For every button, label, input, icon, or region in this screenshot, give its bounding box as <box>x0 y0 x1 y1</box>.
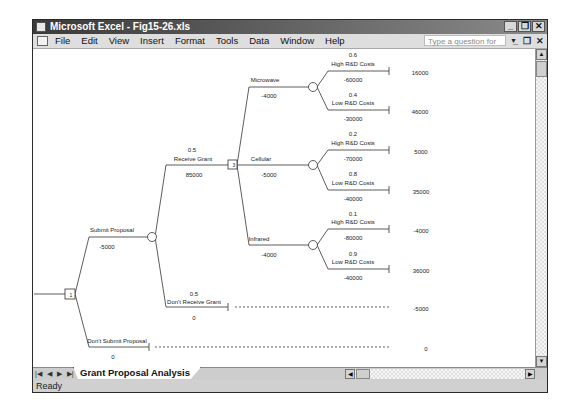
dont-submit-value: 0 <box>111 354 115 360</box>
svg-text:3: 3 <box>233 162 236 168</box>
status-bar: Ready <box>33 380 547 392</box>
submit-proposal-label: Submit Proposal <box>90 227 134 233</box>
outcome-value: -40000 <box>344 275 363 281</box>
horizontal-scrollbar[interactable]: ◀ ▶ <box>345 369 535 379</box>
menu-data[interactable]: Data <box>249 34 269 48</box>
workbook-restore-button[interactable]: ❐ <box>523 34 531 48</box>
menu-window[interactable]: Window <box>280 34 314 48</box>
menu-file[interactable]: File <box>55 34 70 48</box>
sheet-tab-row: |◀ ◀ ▶ ▶| Grant Proposal Analysis ◀ ▶ <box>33 367 547 380</box>
menu-insert[interactable]: Insert <box>140 34 164 48</box>
receive-grant-prob: 0.5 <box>188 147 197 153</box>
minimize-button[interactable]: _ <box>504 21 517 32</box>
scroll-up-arrow-icon[interactable]: ▲ <box>536 49 547 60</box>
dont-receive-label: Don't Receive Grant <box>167 299 221 305</box>
dont-receive-value: 0 <box>192 315 196 321</box>
worksheet-area[interactable]: 1 3 Submit Proposal -5000 Don't Submit P… <box>33 49 535 367</box>
outcome-payoff: 46000 <box>412 109 429 115</box>
infrared-label: Infrared <box>249 236 270 242</box>
outcome-payoff: 16000 <box>412 70 429 76</box>
dont-receive-payoff: -5000 <box>413 306 429 312</box>
workbook-close-button[interactable]: ✕ <box>536 34 544 48</box>
outcome-prob: 0.8 <box>349 171 358 177</box>
window-title: Microsoft Excel - Fig15-26.xls <box>50 20 190 34</box>
menu-edit[interactable]: Edit <box>81 34 97 48</box>
outcome-prob: 0.1 <box>349 211 358 217</box>
sheet-tab-grant-proposal-analysis[interactable]: Grant Proposal Analysis <box>73 367 201 379</box>
menu-format[interactable]: Format <box>175 34 205 48</box>
excel-window: Microsoft Excel - Fig15-26.xls _ ❐ ✕ Fil… <box>32 19 548 393</box>
menu-bar: File Edit View Insert Format Tools Data … <box>33 34 547 49</box>
receive-grant-label: Receive Grant <box>174 156 213 162</box>
vertical-scroll-thumb[interactable] <box>536 61 547 77</box>
next-sheet-icon[interactable]: ▶ <box>57 368 62 380</box>
outcome-value: -30000 <box>344 116 363 122</box>
horizontal-scroll-thumb[interactable] <box>356 369 370 379</box>
microwave-label: Microwave <box>251 77 280 83</box>
outcome-payoff: 36000 <box>413 268 430 274</box>
outcome-value: -70000 <box>344 156 363 162</box>
submit-chance-node[interactable] <box>148 233 157 242</box>
prev-sheet-icon[interactable]: ◀ <box>47 368 52 380</box>
workbook-minimize-button[interactable]: _ <box>513 34 518 48</box>
outcome-value: -80000 <box>344 235 363 241</box>
microwave-chance-node[interactable] <box>309 83 318 92</box>
outcome-value: -60000 <box>344 77 363 83</box>
outcome-payoff: 5000 <box>414 149 428 155</box>
scroll-down-arrow-icon[interactable]: ▼ <box>536 356 547 367</box>
restore-button[interactable]: ❐ <box>518 21 531 32</box>
first-sheet-icon[interactable]: |◀ <box>35 368 42 380</box>
outcome-label: Low R&D Costs <box>332 259 374 265</box>
root-decision-node[interactable]: 1 <box>65 289 75 299</box>
cellular-label: Cellular <box>251 156 271 162</box>
outcome-label: Low R&D Costs <box>332 100 374 106</box>
svg-text:1: 1 <box>70 292 73 298</box>
vertical-scrollbar[interactable]: ▲ ▼ <box>535 49 547 367</box>
outcome-prob: 0.4 <box>349 92 358 98</box>
last-sheet-icon[interactable]: ▶| <box>67 368 74 380</box>
cellular-value: -5000 <box>261 172 277 178</box>
close-button[interactable]: ✕ <box>532 21 545 32</box>
submit-proposal-value: -5000 <box>99 244 115 250</box>
outcome-label: High R&D Costs <box>331 61 375 67</box>
dont-submit-payoff: 0 <box>424 346 428 352</box>
menu-tools[interactable]: Tools <box>216 34 238 48</box>
outcome-label: High R&D Costs <box>331 219 375 225</box>
excel-app-icon[interactable] <box>36 22 46 32</box>
dont-receive-prob: 0.5 <box>190 291 199 297</box>
grant-decision-node[interactable]: 3 <box>228 160 237 169</box>
dont-submit-label: Don't Submit Proposal <box>87 338 147 344</box>
microwave-value: -4000 <box>261 93 277 99</box>
outcome-label: Low R&D Costs <box>332 180 374 186</box>
outcome-label: High R&D Costs <box>331 140 375 146</box>
decision-tree-diagram: 1 3 Submit Proposal -5000 Don't Submit P… <box>33 49 535 367</box>
outcome-payoff: -4000 <box>413 228 429 234</box>
workbook-icon[interactable] <box>37 36 48 46</box>
menu-view[interactable]: View <box>109 34 129 48</box>
title-bar: Microsoft Excel - Fig15-26.xls _ ❐ ✕ <box>33 20 547 34</box>
help-search-input[interactable]: Type a question for help <box>424 35 506 46</box>
outcome-payoff: 35000 <box>413 189 430 195</box>
infrared-chance-node[interactable] <box>309 241 318 250</box>
outcome-prob: 0.2 <box>349 131 358 137</box>
menu-help[interactable]: Help <box>325 34 345 48</box>
outcome-value: -40000 <box>344 196 363 202</box>
receive-grant-value: 85000 <box>186 172 203 178</box>
infrared-value: -4000 <box>261 252 277 258</box>
scroll-left-arrow-icon[interactable]: ◀ <box>345 369 355 379</box>
scroll-right-arrow-icon[interactable]: ▶ <box>525 369 535 379</box>
cellular-chance-node[interactable] <box>309 161 318 170</box>
outcome-prob: 0.6 <box>349 52 358 58</box>
outcome-prob: 0.9 <box>349 251 358 257</box>
